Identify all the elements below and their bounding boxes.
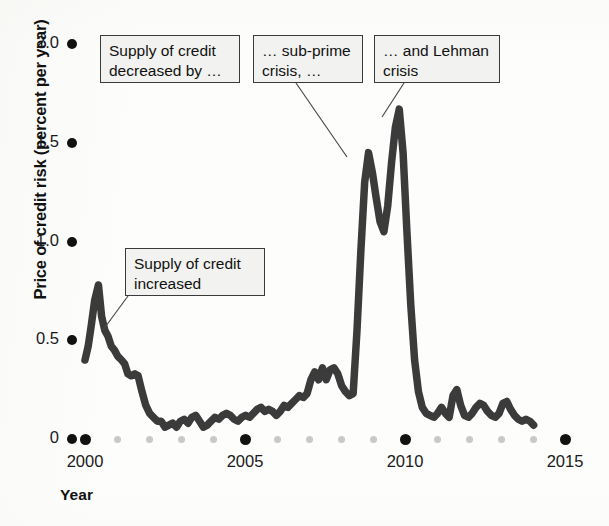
x-tick-dot-minor bbox=[530, 436, 537, 443]
y-tick-dot bbox=[67, 39, 77, 49]
annotation-callout-subprime-crisis: … sub-prime crisis, … bbox=[253, 35, 363, 83]
y-tick-dot bbox=[67, 138, 77, 148]
x-axis-title: Year bbox=[60, 486, 93, 504]
x-tick-dot-minor bbox=[114, 436, 121, 443]
x-tick-dot-minor bbox=[146, 436, 153, 443]
x-tick-dot-minor bbox=[306, 436, 313, 443]
x-tick-dot-major bbox=[80, 434, 91, 445]
y-tick-label: 0 bbox=[13, 428, 59, 447]
x-tick-dot-minor bbox=[178, 436, 185, 443]
annotation-leader-line bbox=[382, 83, 404, 117]
x-tick-dot-major bbox=[400, 434, 411, 445]
x-tick-dot-minor bbox=[466, 436, 473, 443]
x-tick-label: 2015 bbox=[532, 452, 598, 471]
y-tick-dot bbox=[67, 237, 77, 247]
x-tick-label: 2010 bbox=[372, 452, 438, 471]
annotation-callout-supply-decreased: Supply of credit decreased by … bbox=[100, 35, 240, 83]
x-tick-label: 2005 bbox=[212, 452, 278, 471]
x-tick-label: 2000 bbox=[52, 452, 118, 471]
y-tick-label: 2.0 bbox=[13, 33, 59, 52]
y-tick-dot bbox=[67, 434, 77, 444]
y-tick-dot bbox=[67, 335, 77, 345]
y-tick-label: 1.0 bbox=[13, 231, 59, 250]
y-tick-label: 1.5 bbox=[13, 132, 59, 151]
chart-figure: Price of credit risk (percent per year) … bbox=[0, 0, 609, 526]
annotation-leader-line bbox=[296, 83, 347, 157]
x-tick-dot-major bbox=[560, 434, 571, 445]
x-tick-dot-minor bbox=[274, 436, 281, 443]
x-tick-dot-minor bbox=[210, 436, 217, 443]
x-tick-dot-minor bbox=[434, 436, 441, 443]
x-tick-dot-minor bbox=[338, 436, 345, 443]
y-axis-title: Price of credit risk (percent per year) bbox=[31, 0, 50, 360]
annotation-callout-lehman-crisis: … and Lehman crisis bbox=[374, 35, 500, 83]
y-tick-label: 0.5 bbox=[13, 329, 59, 348]
annotation-leader-line bbox=[103, 296, 128, 330]
x-tick-dot-minor bbox=[498, 436, 505, 443]
x-tick-dot-major bbox=[240, 434, 251, 445]
annotation-callout-supply-increased: Supply of credit increased bbox=[125, 248, 265, 296]
x-tick-dot-minor bbox=[370, 436, 377, 443]
